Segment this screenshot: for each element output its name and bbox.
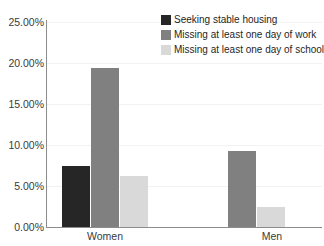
legend-item-label: Missing at least one day of work: [174, 30, 316, 40]
legend-item-missing-day-of-school: Missing at least one day of school: [161, 43, 324, 57]
legend-item-label: Missing at least one day of school: [174, 45, 324, 55]
x-axis-category-women: Women: [87, 231, 123, 242]
y-axis-tick-label: 15.00%: [0, 99, 44, 110]
bar-women-missing-day-of-school: [120, 176, 148, 227]
x-axis-category-men: Men: [262, 231, 282, 242]
gridline: [47, 145, 322, 146]
legend-item-missing-day-of-work: Missing at least one day of work: [161, 28, 324, 42]
y-axis-tick-label: 0.00%: [0, 222, 44, 233]
y-axis-tick-label: 25.00%: [0, 17, 44, 28]
bar-women-seeking-stable-housing: [62, 166, 90, 227]
bar-men-missing-day-of-work: [228, 151, 256, 227]
bar-women-missing-day-of-work: [91, 68, 119, 227]
gridline: [47, 63, 322, 64]
y-axis-tick-label: 10.00%: [0, 140, 44, 151]
y-axis-tick-label: 20.00%: [0, 58, 44, 69]
bar-men-missing-day-of-school: [257, 207, 285, 228]
y-axis-line: [46, 20, 47, 228]
legend-item-seeking-stable-housing: Seeking stable housing: [161, 13, 324, 27]
y-axis-tick-label: 5.00%: [0, 181, 44, 192]
gridline: [47, 104, 322, 105]
bar-chart: 25.00% 20.00% 15.00% 10.00% 5.00% 0.00% …: [0, 0, 324, 246]
chart-legend: Seeking stable housing Missing at least …: [161, 13, 324, 58]
x-axis-line: [46, 227, 322, 228]
legend-swatch-icon: [161, 15, 171, 25]
legend-item-label: Seeking stable housing: [174, 15, 277, 25]
legend-swatch-icon: [161, 45, 171, 55]
legend-swatch-icon: [161, 30, 171, 40]
